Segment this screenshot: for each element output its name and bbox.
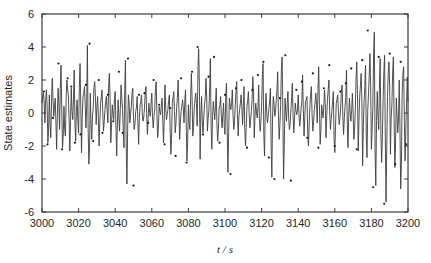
data-point-marker	[295, 89, 297, 91]
data-point-marker	[257, 74, 259, 76]
data-point-marker	[158, 104, 160, 106]
data-point-marker	[339, 90, 341, 92]
data-point-marker	[57, 62, 59, 64]
data-point-marker	[70, 86, 72, 88]
data-point-marker	[323, 87, 325, 89]
data-point-marker	[262, 61, 264, 63]
data-point-marker	[52, 117, 54, 119]
data-point-marker	[394, 163, 396, 165]
data-point-marker	[92, 140, 94, 142]
data-point-marker	[273, 178, 275, 180]
data-point-marker	[372, 186, 374, 188]
data-point-marker	[361, 59, 363, 61]
data-point-marker	[164, 143, 166, 145]
data-point-marker	[101, 132, 103, 134]
data-point-marker	[279, 97, 281, 99]
data-point-marker	[400, 61, 402, 63]
data-point-marker	[143, 92, 145, 94]
data-point-marker	[367, 29, 369, 31]
data-point-marker	[180, 77, 182, 79]
data-point-marker	[74, 142, 76, 144]
plot-canvas	[0, 0, 431, 263]
data-point-marker	[121, 132, 123, 134]
data-point-marker	[46, 143, 48, 145]
data-point-marker	[383, 203, 385, 205]
data-point-marker	[235, 87, 237, 89]
data-point-marker	[224, 94, 226, 96]
data-point-marker	[174, 155, 176, 157]
data-point-marker	[328, 64, 330, 66]
data-point-marker	[185, 161, 187, 163]
data-point-marker	[43, 90, 45, 92]
data-point-marker	[127, 57, 129, 59]
data-point-marker	[317, 147, 319, 149]
data-point-marker	[350, 67, 352, 69]
data-point-marker	[345, 82, 347, 84]
data-point-marker	[191, 71, 193, 73]
data-point-marker	[107, 94, 109, 96]
data-point-marker	[218, 142, 220, 144]
data-point-marker	[85, 84, 87, 86]
data-point-marker	[112, 120, 114, 122]
data-point-marker	[98, 79, 100, 81]
data-point-marker	[268, 156, 270, 158]
data-point-marker	[389, 53, 391, 55]
data-point-marker	[301, 81, 303, 83]
data-point-marker	[202, 133, 204, 135]
data-point-marker	[61, 148, 63, 150]
data-point-marker	[169, 107, 171, 109]
data-point-marker	[251, 89, 253, 91]
data-point-marker	[147, 122, 149, 124]
data-point-marker	[240, 79, 242, 81]
data-point-marker	[207, 76, 209, 78]
data-point-marker	[284, 54, 286, 56]
data-point-marker	[356, 148, 358, 150]
data-point-marker	[196, 46, 198, 48]
data-point-marker	[118, 71, 120, 73]
data-point-marker	[88, 43, 90, 45]
data-point-marker	[246, 147, 248, 149]
data-point-marker	[334, 145, 336, 147]
data-point-marker	[132, 185, 134, 187]
data-point-marker	[229, 173, 231, 175]
data-point-marker	[378, 56, 380, 58]
data-point-marker	[405, 143, 407, 145]
data-point-marker	[213, 56, 215, 58]
data-point-marker	[153, 79, 155, 81]
data-point-marker	[290, 180, 292, 182]
data-point-marker	[306, 137, 308, 139]
data-point-marker	[67, 77, 69, 79]
data-point-marker	[138, 94, 140, 96]
data-point-marker	[79, 133, 81, 135]
data-point-marker	[312, 72, 314, 74]
figure-container: State estimates t / s 6 4 2 0 -2 -4 -6 3…	[0, 0, 431, 263]
